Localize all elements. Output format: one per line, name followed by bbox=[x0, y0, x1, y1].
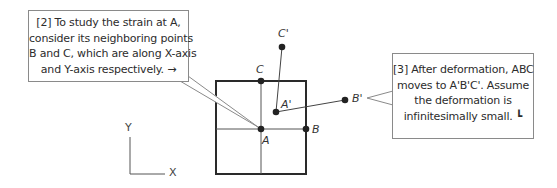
callout-tail-fill bbox=[180, 76, 258, 127]
callout-tail-edge bbox=[188, 76, 258, 127]
point-b-prime bbox=[342, 97, 349, 104]
label-a-prime: A' bbox=[281, 98, 292, 111]
callout-line: consider its neighboring points bbox=[29, 31, 188, 47]
label-a: A bbox=[262, 134, 270, 147]
callout-step-3: [3] After deformation, ABC moves to A'B'… bbox=[392, 53, 534, 139]
label-c-prime: C' bbox=[278, 27, 289, 40]
label-b: B bbox=[312, 123, 320, 136]
point-c-prime bbox=[279, 44, 286, 51]
callout-tail-edge bbox=[180, 81, 258, 127]
callout-line: infinitesimally small. ┗ bbox=[393, 109, 533, 125]
point-a bbox=[258, 126, 265, 133]
point-c bbox=[258, 78, 265, 85]
callout-tail-edge bbox=[367, 98, 393, 105]
callout-line: B and C, which are along X-axis bbox=[29, 46, 188, 62]
point-b bbox=[303, 126, 310, 133]
callout-line: moves to A'B'C'. Assume bbox=[393, 78, 533, 94]
callout-tail-edge bbox=[367, 91, 393, 98]
callout-line: [3] After deformation, ABC bbox=[393, 62, 533, 78]
callout-line: and Y-axis respectively. → bbox=[29, 62, 188, 78]
label-b-prime: B' bbox=[352, 92, 363, 105]
callout-step-2: [2] To study the strain at A, consider i… bbox=[28, 10, 189, 82]
label-c: C bbox=[256, 63, 264, 76]
callout-line: the deformation is bbox=[393, 93, 533, 109]
x-axis-label: X bbox=[169, 166, 177, 179]
y-axis-label: Y bbox=[125, 121, 132, 134]
callout-line: [2] To study the strain at A, bbox=[29, 15, 188, 31]
point-a-prime bbox=[273, 109, 280, 116]
